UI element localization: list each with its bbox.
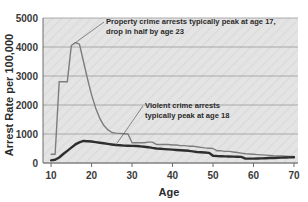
x-tick-label: 10 bbox=[46, 170, 58, 181]
y-axis-tick-labels: 010002000300040005000 bbox=[16, 13, 39, 169]
x-tick-label: 20 bbox=[86, 170, 98, 181]
violent-annotation-line2: typically peak at age 18 bbox=[145, 111, 229, 120]
y-tick-label: 5000 bbox=[16, 13, 39, 24]
y-tick-label: 1000 bbox=[16, 129, 39, 140]
x-axis-ticks bbox=[51, 163, 294, 167]
y-axis-title: Arrest Rate per 100,000 bbox=[3, 34, 15, 156]
chart-canvas: 010002000300040005000 10203040506070 Age… bbox=[0, 0, 308, 202]
x-tick-label: 50 bbox=[207, 170, 219, 181]
x-axis-tick-labels: 10203040506070 bbox=[46, 170, 300, 181]
arrest-rate-by-age-chart: 010002000300040005000 10203040506070 Age… bbox=[0, 0, 308, 202]
y-tick-label: 4000 bbox=[16, 42, 39, 53]
x-tick-label: 30 bbox=[126, 170, 138, 181]
y-tick-label: 0 bbox=[32, 158, 38, 169]
property-annotation-line2: drop in half by age 23 bbox=[106, 27, 184, 36]
x-tick-label: 40 bbox=[167, 170, 179, 181]
property-annotation-line1: Property crime arrests typically peak at… bbox=[106, 17, 276, 26]
violent-annotation-line1: Violent crime arrests bbox=[145, 101, 220, 110]
y-tick-label: 2000 bbox=[16, 100, 39, 111]
x-tick-label: 60 bbox=[248, 170, 260, 181]
x-tick-label: 70 bbox=[288, 170, 300, 181]
y-tick-label: 3000 bbox=[16, 71, 39, 82]
x-axis-title: Age bbox=[159, 186, 180, 198]
